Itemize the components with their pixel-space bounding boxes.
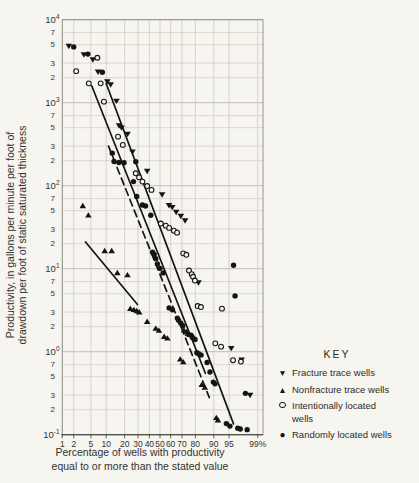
key-entry-label: Intentionally locatedwells (292, 400, 376, 425)
filled-circle-marker (134, 194, 139, 199)
open-circle-marker (95, 55, 100, 60)
y-minor-label: 3 (51, 391, 56, 400)
y-minor-label: 7 (51, 277, 56, 286)
gridlines (62, 20, 263, 435)
open-circle-marker (102, 99, 107, 104)
fracture-trace-trend (106, 84, 233, 424)
triangle-down-filled-icon: ▼ (278, 367, 287, 380)
y-minor-label: 7 (51, 360, 56, 369)
y-minor-label: 2 (51, 156, 56, 165)
y-minor-label: 7 (51, 28, 56, 37)
filled-circle-marker (110, 151, 115, 156)
open-circle-marker (137, 175, 142, 180)
circle-open-icon (278, 400, 287, 413)
open-circle-marker (199, 305, 204, 310)
open-circle-marker (145, 184, 150, 189)
triangle-up-marker (108, 248, 115, 253)
filled-circle-marker (111, 159, 116, 164)
x-tick-label: 99% (249, 439, 266, 449)
key-entry-circle-filled: ●Randomly located wells (278, 429, 418, 442)
filled-circle-marker (238, 426, 243, 431)
filled-circle-marker (232, 293, 237, 298)
filled-circle-marker (131, 179, 136, 184)
y-decade-label: 10-1 (43, 428, 60, 440)
filled-circle-marker (198, 352, 203, 357)
filled-circle-marker (116, 160, 121, 165)
open-circle-marker (184, 252, 189, 257)
key-entry-triangle-up-filled: ▲Nonfracture trace wells (278, 384, 418, 397)
open-circle-marker (149, 188, 154, 193)
triangle-up-marker (124, 272, 131, 277)
filled-circle-marker (204, 360, 209, 365)
filled-circle-marker (71, 44, 76, 49)
y-minor-label: 3 (51, 59, 56, 68)
x-tick-label: 95 (224, 439, 234, 449)
open-circle-marker (120, 143, 125, 148)
y-axis-title-line: Productivity, in gallons per minute per … (4, 132, 16, 338)
y-minor-label: 5 (51, 289, 56, 298)
filled-circle-marker (148, 213, 153, 218)
triangle-down-marker (169, 205, 176, 210)
open-circle-marker (220, 306, 225, 311)
open-circle-marker (86, 81, 91, 86)
y-decade-label: 103 (45, 96, 60, 108)
filled-circle-marker (160, 270, 165, 275)
open-circle-marker (74, 69, 79, 74)
key-entry-circle-open: Intentionally locatedwells (278, 400, 418, 425)
filled-circle-marker (157, 266, 162, 271)
key-title: KEY (278, 348, 396, 360)
triangle-up-marker (79, 203, 86, 208)
filled-circle-marker (170, 307, 175, 312)
triangle-up-filled-icon: ▲ (278, 384, 287, 397)
y-minor-label: 5 (51, 206, 56, 215)
open-circle-marker (98, 81, 103, 86)
open-circle-marker (193, 278, 198, 283)
y-decade-label: 100 (45, 345, 60, 357)
filled-circle-marker (133, 159, 138, 164)
y-minor-label: 7 (51, 194, 56, 203)
filled-circle-marker (100, 70, 105, 75)
key-entry-triangle-down-filled: ▼Fracture trace wells (278, 367, 418, 380)
filled-circle-marker (227, 423, 232, 428)
key-entries: ▼Fracture trace wells▲Nonfracture trace … (278, 367, 418, 442)
filled-circle-marker (212, 381, 217, 386)
x-axis-title-line: Percentage of wells with productivity (55, 446, 225, 458)
y-minor-label: 3 (51, 225, 56, 234)
randomly-located-trend (108, 146, 209, 397)
y-axis-labels: 1047532103753210275321017532100753210-1 (43, 13, 60, 440)
filled-circle-marker (180, 323, 185, 328)
intentionally-located-wells (74, 55, 244, 364)
y-minor-label: 2 (51, 73, 56, 82)
y-minor-label: 5 (51, 123, 56, 132)
open-circle-marker (158, 221, 163, 226)
well-productivity-figure: 1047532103753210275321017532100753210-11… (0, 0, 419, 483)
circle-filled-icon: ● (278, 429, 287, 442)
x-axis-title-line: equal to or more than the stated value (52, 460, 229, 472)
triangle-down-marker (182, 218, 189, 223)
triangle-down-marker (129, 149, 136, 154)
triangle-up-marker (114, 270, 121, 275)
y-decade-label: 102 (45, 179, 60, 191)
filled-circle-marker (85, 51, 90, 56)
y-minor-label: 7 (51, 111, 56, 120)
open-circle-marker (219, 344, 224, 349)
intentionally-located-trend (92, 86, 206, 373)
y-decade-label: 104 (45, 13, 60, 25)
y-minor-label: 3 (51, 308, 56, 317)
key-entry-label: Nonfracture trace wells (292, 384, 389, 397)
open-circle-marker (167, 226, 172, 231)
filled-circle-marker (192, 337, 197, 342)
y-minor-label: 2 (51, 405, 56, 414)
open-circle-marker (116, 134, 121, 139)
y-axis-title: Productivity, in gallons per minute per … (4, 126, 28, 345)
y-minor-label: 5 (51, 372, 56, 381)
open-circle-marker (231, 358, 236, 363)
y-minor-label: 3 (51, 142, 56, 151)
filled-circle-marker (243, 391, 248, 396)
plot-frame (62, 20, 263, 435)
y-axis-title-line: drawdown per foot of static saturated th… (16, 126, 28, 345)
y-minor-label: 2 (51, 322, 56, 331)
filled-circle-marker (231, 263, 236, 268)
open-circle-marker (239, 359, 244, 364)
open-circle-marker (213, 341, 218, 346)
